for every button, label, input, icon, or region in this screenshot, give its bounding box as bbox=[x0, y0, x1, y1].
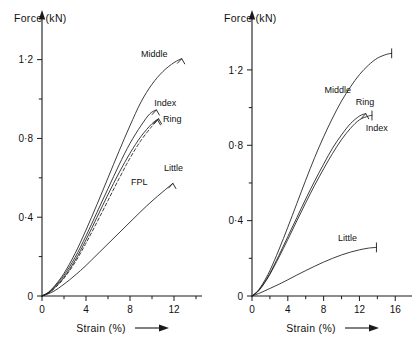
x-tick-label: 12 bbox=[168, 304, 180, 315]
x-tick-label: 0 bbox=[249, 304, 255, 315]
y-tick-label: 0 bbox=[237, 291, 243, 302]
curve-label-ring: Ring bbox=[356, 97, 375, 107]
curve-index bbox=[252, 116, 372, 296]
chart-panel-right: 00·40·81·20481216Force (kN)Strain (%)Mid… bbox=[210, 0, 419, 342]
curve-label-little: Little bbox=[338, 233, 357, 243]
curve-index bbox=[42, 110, 156, 296]
curve-end-mark-middle bbox=[178, 59, 185, 64]
x-tick-label: 4 bbox=[83, 304, 89, 315]
x-axis-title: Strain (%) bbox=[76, 322, 126, 334]
y-tick-label: 0·8 bbox=[229, 140, 244, 151]
y-tick-label: 1·2 bbox=[229, 65, 244, 76]
x-tick-label: 4 bbox=[285, 304, 291, 315]
chart-panel-left: 00·40·81·204812Force (kN)Strain (%)Middl… bbox=[0, 0, 209, 342]
chart-left-svg: 00·40·81·204812Force (kN)Strain (%)Middl… bbox=[0, 0, 209, 342]
y-tick-label: 0 bbox=[27, 291, 33, 302]
curve-label-little: Little bbox=[164, 163, 183, 173]
curve-label-ring: Ring bbox=[163, 114, 182, 124]
curve-middle bbox=[42, 59, 182, 296]
x-tick-label: 8 bbox=[321, 304, 327, 315]
x-axis-title: Strain (%) bbox=[286, 322, 336, 334]
force-strain-figure: 00·40·81·204812Force (kN)Strain (%)Middl… bbox=[0, 0, 419, 342]
curve-ring bbox=[42, 119, 159, 296]
x-tick-label: 12 bbox=[354, 304, 366, 315]
x-tick-label: 16 bbox=[390, 304, 402, 315]
curve-end-mark-index bbox=[152, 110, 159, 115]
x-axis-arrow-icon bbox=[159, 325, 169, 332]
curve-label-index: Index bbox=[366, 123, 389, 133]
curve-label-index: Index bbox=[154, 98, 177, 108]
chart-right-svg: 00·40·81·20481216Force (kN)Strain (%)Mid… bbox=[210, 0, 419, 342]
x-axis-arrow-icon bbox=[369, 325, 379, 332]
y-axis-title: Force (kN) bbox=[14, 12, 67, 24]
curve-label-fpl: FPL bbox=[131, 177, 148, 187]
curve-label-middle: Middle bbox=[325, 85, 352, 95]
y-tick-label: 0·4 bbox=[19, 212, 34, 223]
curve-label-middle: Middle bbox=[141, 49, 168, 59]
y-tick-label: 1·2 bbox=[19, 54, 34, 65]
curve-fpl bbox=[42, 120, 158, 296]
x-tick-label: 8 bbox=[127, 304, 133, 315]
y-tick-label: 0·8 bbox=[19, 133, 34, 144]
curve-middle bbox=[252, 53, 392, 296]
y-axis-title: Force (kN) bbox=[224, 12, 277, 24]
y-tick-label: 0·4 bbox=[229, 215, 244, 226]
x-tick-label: 0 bbox=[39, 304, 45, 315]
